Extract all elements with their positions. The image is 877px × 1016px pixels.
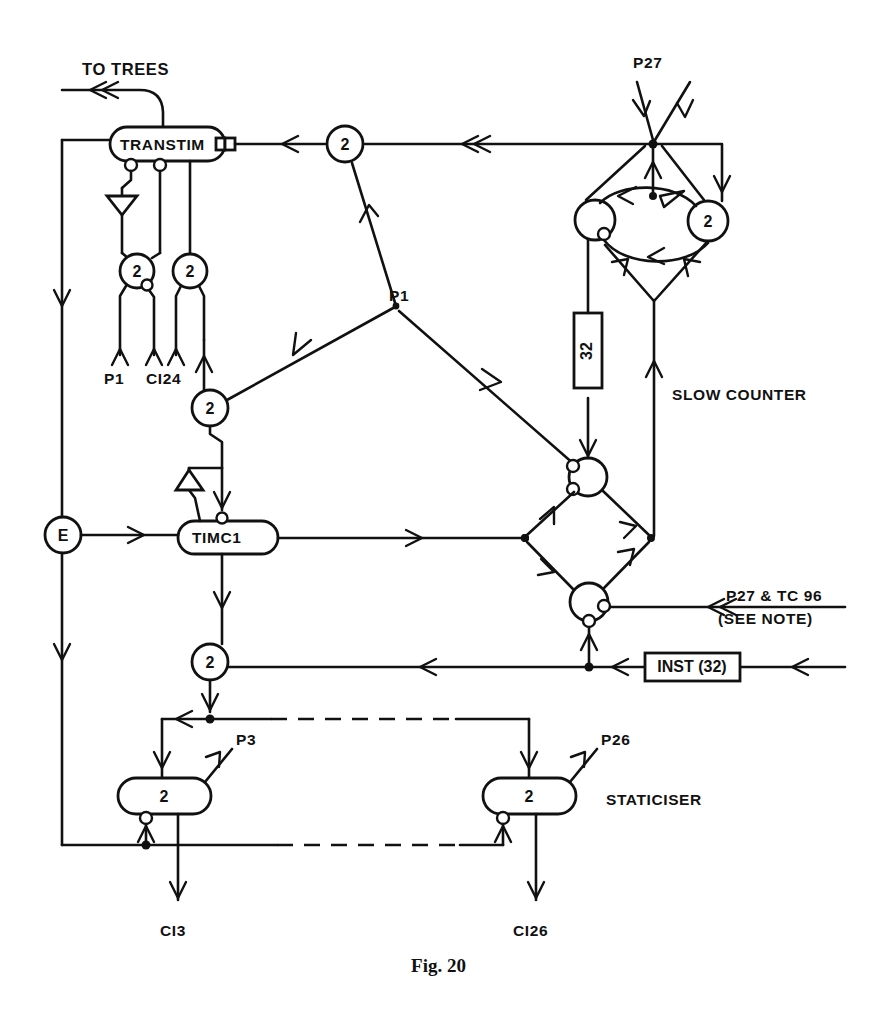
left-rail-upper [54,140,70,517]
p26-input [570,749,597,782]
inst-32-box[interactable]: INST (32) [645,653,740,681]
transtim-gate-b-value: 2 [186,263,195,280]
p27-inputs [633,82,693,140]
e-node[interactable]: E [45,517,81,553]
slow-counter-left-node[interactable] [575,200,615,240]
ci3-output [170,814,186,900]
slow-counter-label: SLOW COUNTER [672,386,807,403]
slow-counter-gate-value: 2 [704,213,713,230]
top-bus-gate[interactable]: 2 [327,126,363,162]
slow-counter-feeds [586,144,730,201]
p3-input [205,749,232,782]
ci26-label: CI26 [513,922,548,939]
bottom-return-bus [62,824,511,850]
timc1-out-gate[interactable]: 2 [192,644,228,680]
p1-input-label: P1 [104,370,124,387]
figure-caption: Fig. 20 [0,955,877,977]
top-bus [235,136,652,152]
ci3-label: CI3 [160,922,186,939]
p26-label: P26 [601,731,630,748]
slow-counter-upper-arc [600,187,696,207]
counter-box-32-value: 32 [578,342,595,360]
timc1-down-output [214,554,230,644]
timc1-output-bus [278,530,529,546]
e-node-value: E [58,527,69,544]
top-bus-gate-value: 2 [341,136,350,153]
staticiser-left-value: 2 [160,788,169,805]
figure-root: TRANSTIM 2 2 2 [0,0,877,1016]
slow-counter-gate[interactable]: 2 [688,201,728,241]
staticiser-right-block[interactable]: 2 [483,778,576,824]
mid-gate[interactable]: 2 [192,340,228,426]
staticiser-label: STATICISER [606,791,702,808]
to-trees-label: TO TREES [82,60,169,78]
inst-32-label: INST (32) [657,658,726,675]
transtim-gate-b[interactable]: 2 [173,253,207,288]
wire-e-to-timc1 [81,527,178,543]
timc1-feedback [176,426,230,524]
ci26-output [528,814,544,900]
transtim-gate-legs [112,286,204,365]
ci24-input-label: CI24 [146,370,181,387]
p27-label: P27 [633,54,662,71]
p27-tc96-label-line2: (SEE NOTE) [718,610,813,627]
diamond-ring [521,458,655,627]
mid-gate-value: 2 [206,400,215,417]
counter-box-32[interactable]: 32 [574,313,602,388]
staticiser-top-bus [154,680,537,778]
p1-junction-label: P1 [389,287,409,304]
circuit-diagram: TRANSTIM 2 2 2 [0,0,877,1016]
transtim-label: TRANSTIM [120,136,205,153]
wire-midgate-to-p1 [227,307,395,400]
p1-junction [352,163,575,465]
left-rail-lower [54,553,70,845]
staticiser-left-block[interactable]: 2 [118,778,211,824]
counter-32-output [580,398,596,458]
staticiser-right-value: 2 [525,788,534,805]
to-trees-branch [62,82,163,127]
timc1-out-gate-value: 2 [206,654,215,671]
p3-label: P3 [236,731,256,748]
p27-tc96-label-line1: P27 & TC 96 [726,587,822,604]
timc1-label: TIMC1 [192,529,242,546]
transtim-gate-a-value: 2 [133,263,142,280]
inst-bus [228,628,845,675]
transtim-inputs [107,159,190,253]
